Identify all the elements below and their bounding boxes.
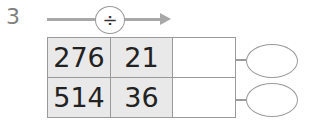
divisor-cell: 36	[111, 78, 173, 118]
connector-line	[235, 99, 246, 101]
table-row: 514 36	[48, 78, 236, 118]
divide-icon: ÷	[95, 6, 125, 34]
division-table: 276 21 514 36	[47, 37, 236, 118]
table-row: 276 21	[48, 38, 236, 78]
dividend-cell: 514	[48, 78, 111, 118]
connector-line	[235, 59, 246, 61]
remainder-oval[interactable]	[246, 83, 298, 117]
answer-cell[interactable]	[173, 38, 236, 78]
dividend-cell: 276	[48, 38, 111, 78]
question-number: 3	[6, 3, 20, 31]
arrow-head-icon	[160, 13, 171, 25]
remainder-oval[interactable]	[246, 44, 298, 78]
answer-cell[interactable]	[173, 78, 236, 118]
divisor-cell: 21	[111, 38, 173, 78]
